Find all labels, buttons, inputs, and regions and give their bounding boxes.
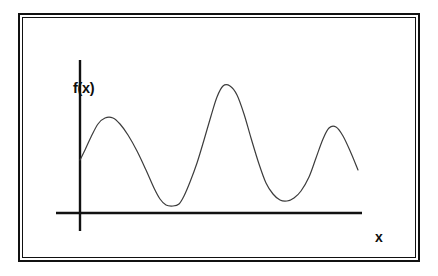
function-plot-svg [23,18,415,257]
y-axis-label: f(x) [73,81,94,96]
plot-area: f(x) x [23,18,415,257]
axes-group [56,60,362,231]
f-of-x-curve [80,85,358,206]
screenshot-canvas: f(x) x [0,0,438,276]
x-axis-label: x [375,230,383,244]
